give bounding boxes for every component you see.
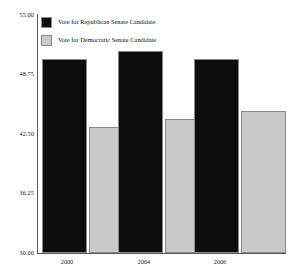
x-axis-tick-label-2000: 2000 <box>47 259 87 265</box>
bar-republican-2000 <box>42 59 87 253</box>
bar-democratic-2006 <box>241 111 286 253</box>
y-axis-tick-label: 55.00 <box>2 12 34 18</box>
chart-legend: Vote for Republican Senate Candidate Vot… <box>41 13 156 49</box>
bars-layer <box>37 14 286 253</box>
bar-chart: 55.00 48.75 42.50 36.25 30.00 2000 2004 … <box>0 0 290 275</box>
legend-label-republican: Vote for Republican Senate Candidate <box>58 19 156 25</box>
bar-republican-2004 <box>118 51 163 253</box>
y-axis-tick-labels: 55.00 48.75 42.50 36.25 30.00 <box>0 0 34 275</box>
x-axis-tick-label-2006: 2006 <box>200 259 240 265</box>
x-axis-tick-label-2004: 2004 <box>124 259 164 265</box>
y-axis-tick-label: 30.00 <box>2 250 34 256</box>
bar-republican-2006 <box>194 59 239 253</box>
y-axis-tick-label: 48.75 <box>2 71 34 77</box>
y-axis-tick-label: 36.25 <box>2 190 34 196</box>
legend-label-democratic: Vote for Democratic Senate Candidate <box>58 37 156 43</box>
black-square-swatch-icon <box>41 17 52 28</box>
x-axis-line <box>37 253 286 254</box>
legend-item-republican: Vote for Republican Senate Candidate <box>41 13 156 31</box>
y-axis-tick-label: 42.50 <box>2 131 34 137</box>
gray-square-swatch-icon <box>41 35 52 46</box>
legend-item-democratic: Vote for Democratic Senate Candidate <box>41 31 156 49</box>
